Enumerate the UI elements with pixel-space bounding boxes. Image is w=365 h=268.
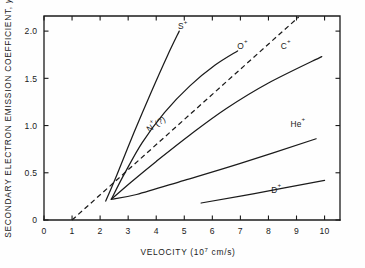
axis-titles-group: VELOCITY (107 cm/s)SECONDARY ELECTRON EM… (3, 0, 236, 257)
y-tick-label-4: 2.0 (25, 26, 38, 36)
curve-n (72, 17, 299, 220)
curve-label-d: D+ (271, 181, 281, 195)
curve-label-s: S+ (178, 17, 188, 31)
curve-o (111, 51, 237, 199)
y-tick-label-3: 1.5 (25, 74, 38, 84)
figure-container: 01234567891000.51.01.52.0 S+O+C+N+(?)He+… (0, 0, 365, 268)
chart-plot: 01234567891000.51.01.52.0 S+O+C+N+(?)He+… (0, 0, 365, 268)
tick-labels-group: 01234567891000.51.01.52.0 (25, 26, 330, 235)
x-tick-label-7: 7 (238, 226, 243, 236)
x-tick-label-5: 5 (182, 226, 187, 236)
curve-label-he: He+ (290, 114, 305, 128)
curve-label-c: C+ (281, 37, 291, 51)
curve-he (111, 139, 316, 199)
x-tick-label-4: 4 (154, 226, 159, 236)
x-axis-title: VELOCITY (107 cm/s) (140, 247, 235, 257)
y-axis-title: SECONDARY ELECTRON EMISSION COEFFICIENT,… (3, 0, 13, 238)
x-tick-label-6: 6 (210, 226, 215, 236)
x-tick-label-10: 10 (319, 226, 329, 236)
curve-label-o: O+ (237, 37, 248, 51)
y-tick-label-2: 1.0 (25, 121, 38, 131)
curve-s (106, 31, 180, 201)
x-tick-label-0: 0 (41, 226, 46, 236)
x-tick-label-8: 8 (266, 226, 271, 236)
y-tick-label-1: 0.5 (25, 168, 38, 178)
x-tick-label-1: 1 (69, 226, 74, 236)
y-tick-label-0: 0 (32, 215, 37, 225)
x-tick-label-3: 3 (126, 226, 131, 236)
x-tick-label-9: 9 (294, 226, 299, 236)
x-tick-label-2: 2 (98, 226, 103, 236)
curve-d (201, 180, 324, 203)
